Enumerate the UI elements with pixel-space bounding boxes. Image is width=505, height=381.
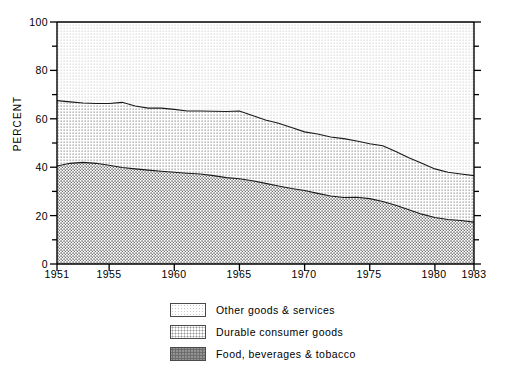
legend-label-durable-consumer-goods: Durable consumer goods [216, 326, 343, 338]
x-tick-label-1983: 1983 [452, 268, 496, 280]
y-tick-label-40: 40 [20, 161, 48, 173]
legend-swatch-medium-dot-icon [170, 325, 206, 339]
x-tick-label-1970: 1970 [282, 268, 326, 280]
x-tick-label-1955: 1955 [87, 268, 131, 280]
x-tick-label-1951: 1951 [35, 268, 79, 280]
chart-legend: Other goods & services Durable consumer … [170, 300, 430, 366]
legend-swatch-light-dot-icon [170, 303, 206, 317]
legend-item-food-beverages-tobacco: Food, beverages & tobacco [170, 344, 430, 364]
x-tick-label-1975: 1975 [347, 268, 391, 280]
legend-item-other-goods-services: Other goods & services [170, 300, 430, 320]
stacked-bands [57, 22, 474, 264]
legend-swatch-dense-dot-icon [170, 347, 206, 361]
legend-label-other-goods-services: Other goods & services [216, 304, 335, 316]
x-tick-label-1965: 1965 [217, 268, 261, 280]
y-tick-label-80: 80 [20, 64, 48, 76]
x-tick-label-1980: 1980 [412, 268, 456, 280]
legend-label-food-beverages-tobacco: Food, beverages & tobacco [216, 348, 356, 360]
stacked-area-chart: PERCENT 100 80 60 40 20 0 1951 1955 1960… [0, 0, 505, 381]
x-tick-label-1960: 1960 [152, 268, 196, 280]
y-tick-label-20: 20 [20, 210, 48, 222]
y-tick-label-60: 60 [20, 113, 48, 125]
legend-item-durable-consumer-goods: Durable consumer goods [170, 322, 430, 342]
y-tick-label-100: 100 [20, 16, 48, 28]
